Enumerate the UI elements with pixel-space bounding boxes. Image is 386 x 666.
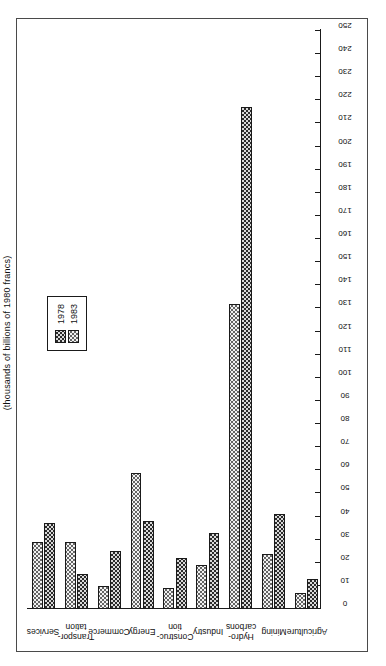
value-tick-label: 80 — [341, 414, 350, 423]
value-tick-label: 120 — [338, 322, 351, 331]
category-label: Transpor- tation — [58, 621, 95, 641]
bar-1983 — [196, 565, 207, 609]
value-tick-label: 20 — [341, 553, 350, 562]
value-tick-label: 200 — [338, 137, 351, 146]
bar-1983 — [295, 593, 306, 609]
value-tick-label: 30 — [341, 530, 350, 539]
legend-entry: 1978 — [55, 304, 66, 343]
value-tick-label: 140 — [338, 275, 351, 284]
legend-swatch-1978 — [55, 330, 66, 343]
bar-1983 — [229, 304, 240, 609]
bar-1983 — [131, 473, 142, 609]
category-label: Services — [27, 626, 60, 636]
value-tick-label: 110 — [339, 345, 352, 354]
category-label: Energy — [129, 626, 156, 636]
bar-1978 — [307, 579, 318, 609]
bar-1978 — [143, 521, 154, 609]
chart-page: (thousands of billions of 1980 francs) A… — [0, 0, 386, 666]
value-tick-label: 190 — [338, 160, 351, 169]
category-label: Mining — [261, 626, 286, 636]
value-tick-label: 40 — [341, 507, 350, 516]
category-label: Industry — [193, 626, 223, 636]
value-tick-label: 0 — [343, 599, 347, 608]
category-label: Commerce — [88, 626, 130, 636]
bar-1978 — [110, 551, 121, 609]
bar-1978 — [209, 533, 220, 609]
value-tick-label: 70 — [341, 437, 350, 446]
value-tick-label: 210 — [338, 113, 351, 122]
value-tick-label-row: 0102030405060708090100110120130140150160… — [321, 29, 345, 609]
bar-1983 — [65, 542, 76, 609]
value-tick-label: 10 — [341, 576, 350, 585]
value-tick-label: 220 — [338, 90, 351, 99]
value-tick-label: 90 — [341, 391, 350, 400]
value-tick-label: 180 — [338, 183, 351, 192]
category-label: Hydro- carbons — [226, 621, 256, 641]
legend-swatch-1983 — [68, 330, 79, 343]
value-tick-label: 130 — [338, 298, 351, 307]
bar-1978 — [274, 514, 285, 609]
value-tick-label: 230 — [338, 67, 351, 76]
bar-1978 — [241, 107, 252, 609]
category-label: Construc- tion — [157, 621, 194, 641]
bar-1978 — [77, 574, 88, 609]
category-label: Agriculture — [286, 626, 327, 636]
bar-1983 — [262, 554, 273, 609]
value-tick-label: 250 — [338, 21, 351, 30]
chart-frame: AgricultureMiningHydro- carbonsIndustryC… — [16, 18, 368, 652]
bar-1983 — [98, 586, 109, 609]
value-tick-label: 100 — [338, 368, 351, 377]
bar-1983 — [163, 588, 174, 609]
value-tick-label: 150 — [338, 252, 351, 261]
value-tick-label: 160 — [338, 229, 351, 238]
value-tick-label: 170 — [338, 206, 351, 215]
chart-caption: (thousands of billions of 1980 francs) — [2, 0, 12, 666]
value-tick-label: 50 — [341, 483, 350, 492]
value-tick-label: 240 — [338, 44, 351, 53]
value-tick-label: 60 — [341, 460, 350, 469]
legend-label: 1978 — [56, 304, 66, 324]
legend-label: 1983 — [69, 304, 79, 324]
legend-entry: 1983 — [68, 304, 79, 343]
bar-1978 — [176, 558, 187, 609]
chart-legend: 19781983 — [47, 296, 87, 351]
rotated-figure: (thousands of billions of 1980 francs) A… — [0, 0, 386, 666]
